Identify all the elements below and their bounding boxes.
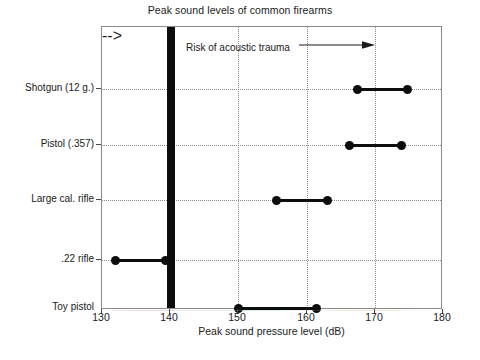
annotation-label: Risk of acoustic trauma — [186, 42, 290, 53]
x-axis-tick-label-160: 160 — [286, 311, 326, 323]
gridline-vertical-150 — [238, 27, 239, 308]
y-axis-label-large-cal-rifle: Large cal. rifle — [8, 193, 94, 204]
data-point-pistol-357-low — [345, 141, 354, 150]
data-point-22-rifle-high — [161, 256, 170, 265]
data-point-large-cal-rifle-high — [323, 196, 332, 205]
data-point-22-rifle-low — [111, 256, 120, 265]
chart-figure: Peak sound levels of common firearms Sho… — [0, 0, 480, 360]
range-segment-shotgun — [357, 88, 407, 91]
x-axis-tick-label-180: 180 — [422, 311, 462, 323]
x-axis-tick-label-130: 130 — [81, 311, 121, 323]
data-point-pistol-357-high — [397, 141, 406, 150]
y-axis-label-shotgun: Shotgun (12 g.) — [8, 82, 94, 93]
x-axis-tick-label-150: 150 — [217, 311, 257, 323]
range-segment-large-cal-rifle — [276, 199, 327, 202]
annotation-risk-of-acoustic-trauma: Risk of acoustic trauma — [186, 41, 375, 53]
range-segment-pistol-357 — [349, 144, 401, 147]
x-axis-tick-label-170: 170 — [354, 311, 394, 323]
x-axis-title: Peak sound pressure level (dB) — [101, 325, 442, 337]
acoustic-trauma-threshold-band — [167, 27, 175, 308]
y-axis-label-22-rifle: .22 rifle — [8, 253, 94, 264]
chart-title: Peak sound levels of common firearms — [0, 4, 480, 16]
right-arrow-icon — [299, 40, 375, 52]
range-segment-22-rifle — [115, 259, 165, 262]
x-axis-tick-label-140: 140 — [149, 311, 189, 323]
data-point-shotgun-high — [403, 85, 412, 94]
data-point-shotgun-low — [353, 85, 362, 94]
plot-area: --> Risk of acoustic trauma — [101, 26, 442, 309]
gridline-vertical-160 — [307, 27, 308, 308]
y-axis-label-pistol-357: Pistol (.357) — [8, 138, 94, 149]
gridline-vertical-170 — [375, 27, 376, 308]
data-point-large-cal-rifle-low — [272, 196, 281, 205]
